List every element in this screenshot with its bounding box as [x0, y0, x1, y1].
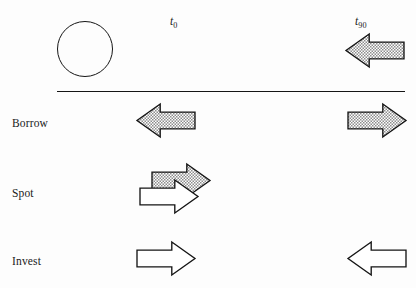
- borrow-left-arrow-shape: [137, 104, 195, 137]
- row-label-borrow: Borrow: [12, 118, 48, 130]
- row-label-invest: Invest: [12, 256, 41, 268]
- timeline-divider: [57, 91, 405, 92]
- borrow-right-arrow: [348, 104, 406, 137]
- time-label-t0-subscript: 0: [173, 21, 177, 30]
- spot-front-arrow-shape: [140, 180, 198, 213]
- spot-front-arrow: [140, 180, 198, 213]
- time-label-t90-subscript: 90: [358, 21, 366, 30]
- diagram-canvas: t0 t90 Borrow Spot Invest: [0, 0, 416, 288]
- invest-left-arrow: [137, 242, 195, 275]
- invest-left-arrow-shape: [137, 242, 195, 275]
- header-inflow-arrow-shape: [346, 34, 404, 67]
- row-label-spot: Spot: [12, 188, 34, 200]
- borrow-right-arrow-shape: [348, 104, 406, 137]
- principal-circle: [57, 21, 113, 77]
- time-label-t90: t90: [355, 16, 367, 30]
- borrow-left-arrow: [137, 104, 195, 137]
- time-label-t0: t0: [170, 16, 177, 30]
- header-inflow-arrow: [346, 34, 404, 67]
- invest-right-arrow: [348, 242, 406, 275]
- invest-right-arrow-shape: [348, 242, 406, 275]
